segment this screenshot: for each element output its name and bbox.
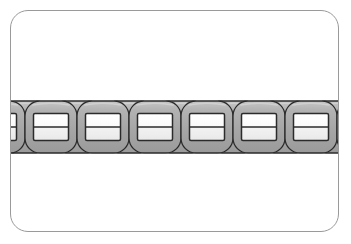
chain-link	[77, 101, 129, 153]
chain-link	[181, 101, 233, 153]
chain-link	[11, 101, 25, 153]
illustration-alt-text: A horizontal row of interlocking rectang…	[0, 0, 1, 1]
chain-link	[233, 101, 285, 153]
chain-illustration	[11, 87, 338, 167]
illustration-card	[10, 10, 339, 232]
chain-link	[285, 101, 337, 153]
chain-link	[129, 101, 181, 153]
illustration-canvas: A horizontal row of interlocking rectang…	[0, 0, 351, 244]
chain-link	[25, 101, 77, 153]
chain-clip-region	[11, 11, 338, 231]
chain-links-front	[11, 101, 338, 153]
